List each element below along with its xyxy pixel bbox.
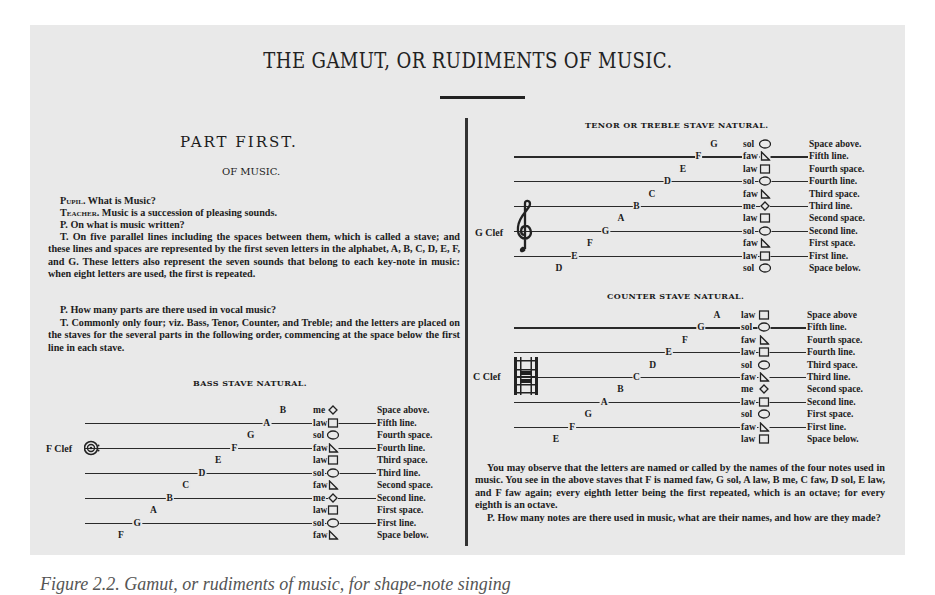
speaker: P.: [60, 304, 68, 315]
note-letter: A: [600, 396, 609, 406]
oval-note-icon: [327, 468, 340, 478]
solfege-syllable: law: [740, 434, 756, 444]
note-letter: F: [586, 238, 594, 248]
oval-note-icon: [759, 263, 772, 273]
stave-position-label: First space.: [376, 505, 424, 515]
solfege-syllable: sol: [312, 430, 325, 440]
triangle-note-icon: [759, 335, 770, 345]
dialogue-text: You may observe that the letters are nam…: [475, 462, 885, 510]
note-letter: G: [246, 430, 255, 440]
solfege-syllable: faw: [742, 188, 759, 198]
triangle-note-icon: [328, 530, 339, 540]
title-divider: [440, 96, 525, 99]
note-letter: E: [679, 163, 687, 173]
solfege-syllable: faw: [740, 372, 757, 382]
note-letter: B: [279, 405, 287, 415]
solfege-syllable: sol: [742, 225, 755, 235]
stave-position-label: Third space.: [806, 359, 859, 369]
square-note-icon: [759, 397, 770, 407]
section-title: OF MUSIC.: [222, 166, 280, 177]
note-letter: D: [648, 359, 657, 369]
solfege-syllable: faw: [740, 334, 757, 344]
diamond-note-icon: [760, 201, 770, 211]
stave-position-label: Second space.: [376, 480, 434, 490]
square-note-icon: [759, 310, 770, 320]
solfege-syllable: law: [742, 250, 758, 260]
explanation-paragraph: You may observe that the letters are nam…: [475, 462, 885, 511]
speaker: T.: [60, 231, 69, 242]
square-note-icon: [328, 505, 339, 515]
c-clef-icon: [513, 356, 539, 396]
solfege-syllable: sol: [742, 176, 755, 186]
speaker: Pupil.: [60, 195, 86, 206]
solfege-syllable: sol: [312, 517, 325, 527]
note-letter: E: [665, 347, 673, 357]
stave-position-label: Fourth space.: [808, 163, 865, 173]
oval-note-icon: [758, 322, 771, 332]
solfege-syllable: sol: [740, 409, 753, 419]
dialogue-text: How many parts are there used in vocal m…: [68, 304, 276, 315]
oval-note-icon: [759, 139, 772, 149]
dialogue-teacher-answer: Teacher. Music is a succession of pleasi…: [60, 207, 460, 219]
g-clef-label: G Clef: [475, 227, 503, 238]
note-letter: D: [555, 263, 564, 273]
dialogue-text: Commonly only four; viz. Bass, Tenor, Co…: [48, 317, 460, 353]
triangle-note-icon: [760, 189, 771, 199]
stave-position-label: Fourth line.: [376, 442, 426, 452]
solfege-syllable: law: [312, 505, 328, 515]
stave-position-label: Second line.: [806, 396, 857, 406]
dialogue-answer: T. On five parallel lines including the …: [48, 231, 460, 280]
oval-note-icon: [758, 360, 771, 370]
note-letter: F: [117, 530, 125, 540]
stave-position-label: Space above: [806, 310, 858, 320]
stave-position-label: Second line.: [376, 492, 427, 502]
solfege-syllable: faw: [312, 530, 329, 540]
column-divider: [465, 118, 468, 546]
stave-position-label: Space above.: [376, 405, 430, 415]
triangle-note-icon: [759, 422, 770, 432]
stave-position-label: Fifth line.: [806, 322, 848, 332]
stave-position-label: Fifth line.: [376, 417, 418, 427]
note-letter: B: [616, 384, 624, 394]
dialogue-answer: T. Commonly only four; viz. Bass, Tenor,…: [48, 317, 460, 354]
solfege-syllable: sol: [312, 467, 325, 477]
note-letter: A: [617, 213, 626, 223]
speaker: Teacher.: [60, 207, 99, 218]
stave-position-label: Fourth line.: [806, 347, 856, 357]
stave-position-label: Space above.: [808, 139, 862, 149]
solfege-syllable: law: [312, 417, 328, 427]
solfege-syllable: sol: [742, 263, 755, 273]
solfege-syllable: sol: [740, 359, 753, 369]
note-letter: C: [181, 480, 190, 490]
stave-position-label: First line.: [808, 250, 849, 260]
g-clef-icon: [514, 199, 536, 257]
note-letter: B: [165, 492, 173, 502]
solfege-syllable: faw: [740, 421, 757, 431]
page-title: THE GAMUT, OR RUDIMENTS OF MUSIC.: [85, 48, 852, 73]
solfege-syllable: law: [742, 163, 758, 173]
square-note-icon: [759, 347, 770, 357]
c-clef-label: C Clef: [473, 371, 501, 382]
solfege-syllable: law: [740, 310, 756, 320]
note-letter: G: [696, 322, 705, 332]
stave-position-label: Fifth line.: [808, 151, 850, 161]
solfege-syllable: law: [312, 455, 328, 465]
note-letter: C: [648, 188, 657, 198]
note-letter: A: [149, 505, 158, 515]
note-letter: F: [568, 421, 576, 431]
figure-caption: Figure 2.2. Gamut, or rudiments of music…: [40, 574, 511, 595]
note-letter: F: [230, 442, 238, 452]
triangle-note-icon: [328, 443, 339, 453]
note-letter: F: [695, 151, 703, 161]
square-note-icon: [328, 455, 339, 465]
stave-position-label: First space.: [808, 238, 856, 248]
solfege-syllable: sol: [742, 139, 755, 149]
note-letter: G: [601, 225, 610, 235]
stave-position-label: Space below.: [808, 263, 862, 273]
solfege-syllable: faw: [742, 238, 759, 248]
f-clef-label: F Clef: [46, 443, 72, 454]
note-letter: C: [632, 372, 641, 382]
diamond-note-icon: [328, 493, 338, 503]
dialogue-question: P. On what is music written?: [60, 219, 460, 231]
part-title: PART FIRST.: [180, 133, 298, 151]
